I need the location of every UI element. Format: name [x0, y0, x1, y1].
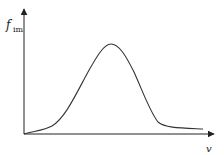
x-axis-label: v	[206, 143, 212, 154]
y-axis-label: f	[5, 18, 13, 32]
distribution-diagram: f im v	[0, 0, 224, 155]
y-axis-label-subscript: im	[13, 25, 24, 34]
distribution-curve	[24, 44, 203, 134]
